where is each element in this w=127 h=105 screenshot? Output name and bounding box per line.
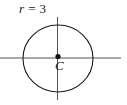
center-point-label: C xyxy=(55,59,64,72)
radius-value: 3 xyxy=(40,1,47,16)
radius-variable: r xyxy=(19,1,24,16)
circle-diagram: r = 3 C xyxy=(0,0,127,105)
equals-sign: = xyxy=(28,1,36,16)
radius-label: r = 3 xyxy=(19,2,46,15)
